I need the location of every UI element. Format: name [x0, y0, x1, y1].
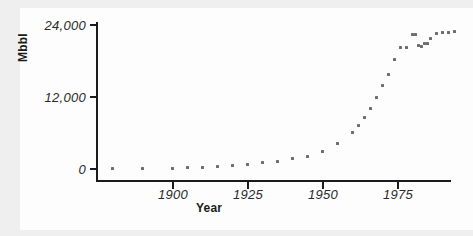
data-point	[201, 166, 204, 169]
data-point	[369, 107, 372, 110]
data-point	[399, 46, 402, 49]
data-point	[453, 30, 456, 33]
data-point	[363, 116, 366, 119]
data-point	[429, 37, 432, 40]
data-point	[111, 167, 114, 170]
data-point	[306, 155, 309, 158]
data-point	[231, 164, 234, 167]
data-point	[171, 167, 174, 170]
data-point	[393, 58, 396, 61]
data-point	[420, 45, 423, 48]
data-point	[357, 124, 360, 127]
data-point	[351, 131, 354, 134]
data-point	[291, 157, 294, 160]
data-point	[336, 142, 339, 145]
data-point	[441, 31, 444, 34]
data-point	[216, 165, 219, 168]
data-point	[381, 84, 384, 87]
data-point	[186, 166, 189, 169]
data-point	[447, 31, 450, 34]
data-point	[375, 96, 378, 99]
data-point	[435, 32, 438, 35]
data-point	[405, 46, 408, 49]
data-point	[426, 42, 429, 45]
data-point	[387, 73, 390, 76]
data-point	[246, 163, 249, 166]
data-point	[321, 150, 324, 153]
chart-figure: 24,000 12,000 0 1900 1925 1950 1975 Mbbl…	[0, 0, 473, 236]
scatter-points-layer	[0, 0, 473, 236]
data-point	[414, 33, 417, 36]
data-point	[261, 161, 264, 164]
data-point	[141, 167, 144, 170]
data-point	[276, 160, 279, 163]
